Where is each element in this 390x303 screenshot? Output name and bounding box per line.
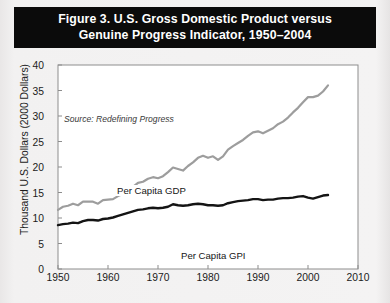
y-tick-20: 20 [22, 162, 44, 173]
figure-title-banner: Figure 3. U.S. Gross Domestic Product ve… [14, 7, 376, 48]
source-annotation: Source: Redefining Progress [64, 114, 174, 124]
x-tick-1970: 1970 [138, 272, 178, 283]
series-label-gdp: Per Capita GDP [115, 185, 188, 196]
y-tick-25: 25 [22, 136, 44, 147]
x-tick-2000: 2000 [288, 272, 328, 283]
plot-area-wrapper: Thousand U.S. Dollars (2000 Dollars) 051… [0, 48, 390, 303]
x-tick-2010: 2010 [338, 272, 378, 283]
x-tick-1990: 1990 [238, 272, 278, 283]
y-tick-35: 35 [22, 85, 44, 96]
y-tick-15: 15 [22, 187, 44, 198]
x-tick-1980: 1980 [188, 272, 228, 283]
y-tick-10: 10 [22, 213, 44, 224]
series-label-gpi: Per Capita GPI [179, 250, 248, 261]
figure-title-line-1: Figure 3. U.S. Gross Domestic Product ve… [58, 12, 332, 27]
y-axis-tick-labels: 0510152025303540 [12, 48, 44, 303]
figure-container: Figure 3. U.S. Gross Domestic Product ve… [0, 0, 390, 303]
plot-background [58, 65, 358, 269]
figure-title-line-2: Genuine Progress Indicator, 1950–2004 [79, 28, 312, 43]
y-tick-30: 30 [22, 111, 44, 122]
y-tick-5: 5 [22, 238, 44, 249]
x-tick-1950: 1950 [38, 272, 78, 283]
x-axis-tick-labels: 1950196019701980199020002010 [0, 272, 390, 292]
line-chart-canvas [0, 48, 390, 303]
x-tick-1960: 1960 [88, 272, 128, 283]
y-tick-40: 40 [22, 60, 44, 71]
